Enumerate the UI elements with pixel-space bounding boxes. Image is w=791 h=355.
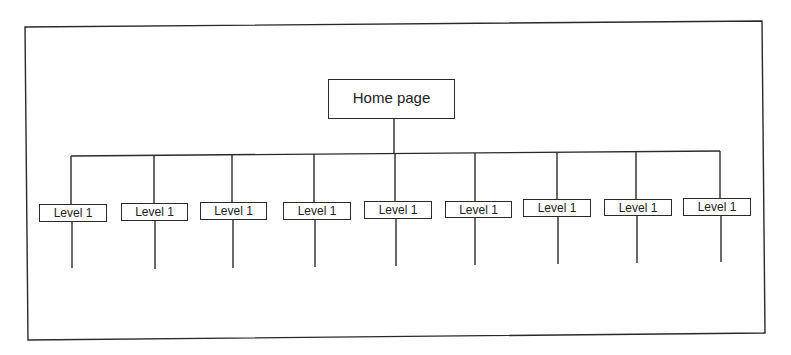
- level1-node-5: Level 1: [364, 201, 432, 219]
- home-page-node: Home page: [328, 79, 455, 119]
- level1-label: Level 1: [54, 206, 93, 220]
- level1-label: Level 1: [135, 205, 174, 219]
- level1-label: Level 1: [298, 204, 337, 218]
- level1-label: Level 1: [619, 201, 658, 215]
- level1-label: Level 1: [698, 200, 737, 214]
- level1-node-4: Level 1: [283, 202, 351, 220]
- level1-label: Level 1: [538, 201, 577, 215]
- level1-node-6: Level 1: [445, 201, 512, 218]
- site-structure-diagram: Home page Level 1 Level 1 Level 1 Level …: [0, 0, 791, 355]
- level1-node-3: Level 1: [200, 202, 267, 220]
- level1-node-2: Level 1: [121, 203, 188, 221]
- level1-label: Level 1: [214, 204, 253, 218]
- level1-node-7: Level 1: [523, 199, 591, 217]
- level1-label: Level 1: [379, 203, 418, 217]
- connector-lines: [0, 0, 791, 355]
- level1-label: Level 1: [459, 203, 498, 217]
- level1-node-8: Level 1: [604, 199, 672, 216]
- home-page-label: Home page: [353, 89, 431, 106]
- level1-node-9: Level 1: [683, 198, 751, 216]
- level1-node-1: Level 1: [39, 204, 107, 222]
